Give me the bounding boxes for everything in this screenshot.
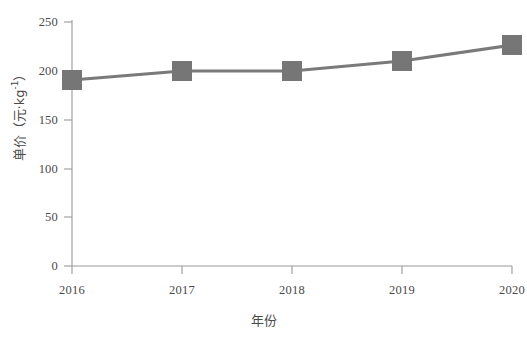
x-tick-label-2019: 2019 bbox=[372, 283, 432, 298]
x-tick-label-2020: 2020 bbox=[482, 283, 527, 298]
x-axis-title: 年份 bbox=[0, 310, 527, 329]
y-axis-title-exponent: -1 bbox=[10, 81, 20, 90]
y-axis-title: 单价（元·kg-1） bbox=[9, 45, 28, 185]
y-axis-title-tail: ） bbox=[12, 68, 27, 81]
y-tick-marks bbox=[64, 22, 72, 266]
y-axis-title-base: 单价（元·kg bbox=[12, 90, 27, 162]
y-tick-label-0: 0 bbox=[18, 259, 58, 274]
data-point-marker bbox=[502, 35, 522, 55]
x-tick-marks bbox=[72, 266, 512, 274]
data-point-marker bbox=[172, 61, 192, 81]
x-tick-label-2018: 2018 bbox=[262, 283, 322, 298]
line-chart: 250 200 150 100 50 0 2016 2017 2018 2019… bbox=[0, 0, 527, 342]
data-point-marker bbox=[282, 61, 302, 81]
y-tick-label-50: 50 bbox=[18, 210, 58, 225]
data-point-marker bbox=[62, 70, 82, 90]
y-tick-label-250: 250 bbox=[18, 15, 58, 30]
data-point-markers bbox=[62, 35, 522, 90]
x-tick-label-2016: 2016 bbox=[42, 283, 102, 298]
data-point-marker bbox=[392, 51, 412, 71]
x-tick-label-2017: 2017 bbox=[152, 283, 212, 298]
